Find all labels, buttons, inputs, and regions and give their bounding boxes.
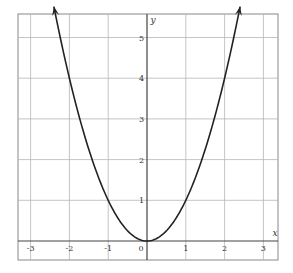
- plot-frame: [18, 14, 278, 260]
- x-tick-label: -2: [66, 244, 74, 253]
- y-tick-label: 3: [139, 115, 144, 124]
- x-tick-label: 0: [138, 244, 143, 253]
- x-tick-label: -3: [27, 244, 35, 253]
- axes: [18, 14, 278, 260]
- x-tick-label: -1: [104, 244, 112, 253]
- tick-labels: -3-2-1012312345xy: [27, 15, 278, 253]
- grid: [18, 14, 278, 260]
- y-tick-label: 2: [139, 156, 144, 165]
- x-tick-label: 2: [222, 244, 227, 253]
- x-axis-label: x: [272, 228, 277, 238]
- x-tick-label: 3: [261, 244, 266, 253]
- y-tick-label: 5: [139, 34, 144, 43]
- y-tick-label: 1: [139, 196, 144, 205]
- parabola-chart: -3-2-1012312345xy: [0, 0, 293, 273]
- y-tick-label: 4: [139, 74, 144, 83]
- y-axis-label: y: [149, 15, 156, 25]
- x-tick-label: 1: [183, 244, 188, 253]
